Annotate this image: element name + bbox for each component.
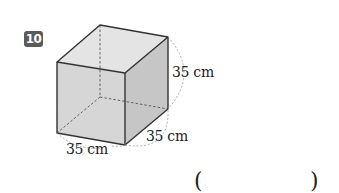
width-dimension-label: 35 cm (66, 141, 108, 157)
depth-dimension-label: 35 cm (146, 128, 188, 144)
cube-figure (0, 0, 339, 193)
height-dimension-label: 35 cm (172, 64, 214, 80)
cube-front-face (57, 62, 125, 145)
answer-close-paren: ) (310, 168, 319, 193)
answer-open-paren: ( (194, 168, 203, 193)
answer-blank[interactable] (210, 170, 310, 192)
